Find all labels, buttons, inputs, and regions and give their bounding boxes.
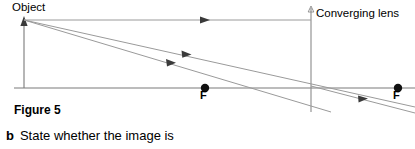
focal-point-left-label: F <box>200 90 207 101</box>
ray-to-focal <box>24 20 331 112</box>
question-b: b State whether the image is <box>6 128 174 143</box>
converging-lens-label: Converging lens <box>316 8 399 20</box>
object-label: Object <box>12 2 45 14</box>
ray-diagram <box>0 0 415 149</box>
ray-through-centre <box>24 20 415 107</box>
figure-caption: Figure 5 <box>14 104 61 116</box>
ray-parallel-arrow-icon <box>200 17 210 24</box>
worksheet-page: Object Converging lens F F Figure 5 b St… <box>0 0 415 149</box>
question-letter: b <box>6 128 14 143</box>
focal-point-right-label: F <box>393 90 400 101</box>
question-text: State whether the image is <box>20 128 174 143</box>
